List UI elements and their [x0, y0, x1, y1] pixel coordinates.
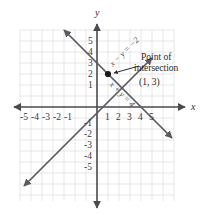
x-tick-label-4: 4: [138, 113, 143, 123]
x-axis-name: x: [191, 102, 195, 112]
coordinate-plane-svg: [0, 0, 206, 215]
y-tick-label-neg4: -4: [84, 152, 92, 162]
x-tick-label-2: 2: [116, 113, 121, 123]
annotation-point-of-intersection-line2: intersection: [134, 63, 178, 73]
x-tick-label-neg5: -5: [20, 113, 28, 123]
y-tick-label-5: 5: [88, 37, 93, 47]
x-tick-label-1: 1: [105, 113, 110, 123]
x-tick-label-5: 5: [149, 113, 154, 123]
y-axis-name: y: [95, 8, 99, 18]
x-tick-label-neg3: -3: [42, 113, 50, 123]
y-tick-label-1: 1: [88, 81, 93, 91]
y-tick-label-2: 2: [88, 70, 93, 80]
intersection-point-dot: [105, 71, 111, 77]
x-tick-label-neg2: -2: [53, 113, 61, 123]
y-tick-label-3: 3: [88, 59, 93, 69]
annotation-point-coordinates: (1, 3): [139, 78, 160, 88]
y-tick-label-4: 4: [88, 48, 93, 58]
annotation-point-of-intersection-line1: Point of: [141, 52, 171, 62]
x-tick-label-3: 3: [127, 113, 132, 123]
y-tick-label-neg3: -3: [84, 141, 92, 151]
y-tick-label-neg1: -1: [84, 119, 92, 129]
y-tick-label-neg5: -5: [84, 163, 92, 173]
y-tick-label-neg2: -2: [84, 130, 92, 140]
graph-figure: -5 -4 -3 -2 -1 1 2 3 4 5 5 4 3 2 1 -1 -2…: [0, 0, 206, 215]
x-tick-label-neg4: -4: [31, 113, 39, 123]
x-tick-label-neg1: -1: [64, 113, 72, 123]
